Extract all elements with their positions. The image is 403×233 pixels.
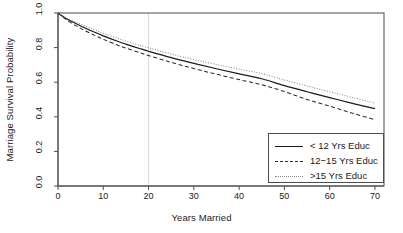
x-tick-label-7: 70 — [370, 191, 380, 201]
x-tick-label-2: 20 — [144, 191, 154, 201]
chart-figure: Marriage Survival Probability Years Marr… — [0, 0, 403, 233]
x-axis-title: Years Married — [0, 212, 403, 223]
legend-line-sample-dashed-icon — [275, 156, 303, 166]
y-tick-label-1: 0.2 — [30, 142, 48, 152]
x-tick-label-6: 60 — [325, 191, 335, 201]
y-axis-title: Marriage Survival Probability — [5, 38, 16, 162]
x-tick-label-4: 40 — [234, 191, 244, 201]
legend-item-label-2: >15 Yrs Educ — [310, 170, 367, 181]
y-tick-label-0: 0.0 — [30, 177, 48, 187]
legend-line-sample-solid-icon — [275, 141, 303, 151]
legend: < 12 Yrs Educ12−15 Yrs Educ>15 Yrs Educ — [268, 133, 384, 183]
y-tick-label-5: 1.0 — [30, 4, 48, 14]
series-line-0 — [58, 13, 375, 109]
y-axis-title-container: Marriage Survival Probability — [0, 0, 20, 199]
legend-item-label-1: 12−15 Yrs Educ — [310, 155, 378, 166]
legend-item-label-0: < 12 Yrs Educ — [310, 140, 370, 151]
legend-item-0: < 12 Yrs Educ — [269, 138, 385, 153]
legend-item-2: >15 Yrs Educ — [269, 168, 385, 183]
legend-item-1: 12−15 Yrs Educ — [269, 153, 385, 168]
y-tick-label-2: 0.4 — [30, 108, 48, 118]
y-tick-label-4: 0.8 — [30, 39, 48, 49]
series-line-2 — [58, 13, 375, 103]
series-line-1 — [58, 13, 375, 120]
x-tick-label-3: 30 — [189, 191, 199, 201]
legend-line-sample-dotted-icon — [275, 171, 303, 181]
y-tick-label-3: 0.6 — [30, 73, 48, 83]
x-tick-label-5: 50 — [279, 191, 289, 201]
x-tick-label-1: 10 — [98, 191, 108, 201]
x-tick-label-0: 0 — [55, 191, 60, 201]
